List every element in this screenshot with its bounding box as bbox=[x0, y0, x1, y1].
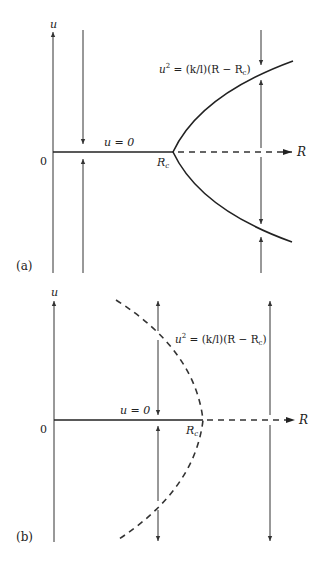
bifurcation-diagram: u 0 R u = 0 Rc u2 = (k/l)(R − Rc) (a) u bbox=[0, 0, 322, 563]
u-axis-label: u bbox=[51, 286, 58, 299]
panel-a: u 0 R u = 0 Rc u2 = (k/l)(R − Rc) (a) bbox=[16, 18, 306, 273]
origin-label: 0 bbox=[40, 155, 47, 168]
u-axis-label: u bbox=[50, 18, 57, 31]
trivial-branch-label: u = 0 bbox=[104, 136, 134, 149]
r-axis-label: R bbox=[298, 413, 308, 427]
branch-equation: u2 = (k/l)(R − Rc) bbox=[159, 62, 251, 77]
critical-point-label: Rc bbox=[156, 156, 169, 170]
panel-b: u 0 R u = 0 Rc u2 = (k/l)(R − Rc) (b) bbox=[16, 286, 308, 544]
origin-label: 0 bbox=[40, 423, 47, 436]
panel-label-b: (b) bbox=[16, 530, 33, 544]
critical-point-label: Rc bbox=[185, 424, 198, 438]
branch-equation: u2 = (k/l)(R − Rc) bbox=[175, 332, 267, 347]
trivial-branch-label: u = 0 bbox=[120, 404, 150, 417]
panel-label-a: (a) bbox=[16, 259, 33, 273]
r-axis-label: R bbox=[296, 145, 306, 159]
